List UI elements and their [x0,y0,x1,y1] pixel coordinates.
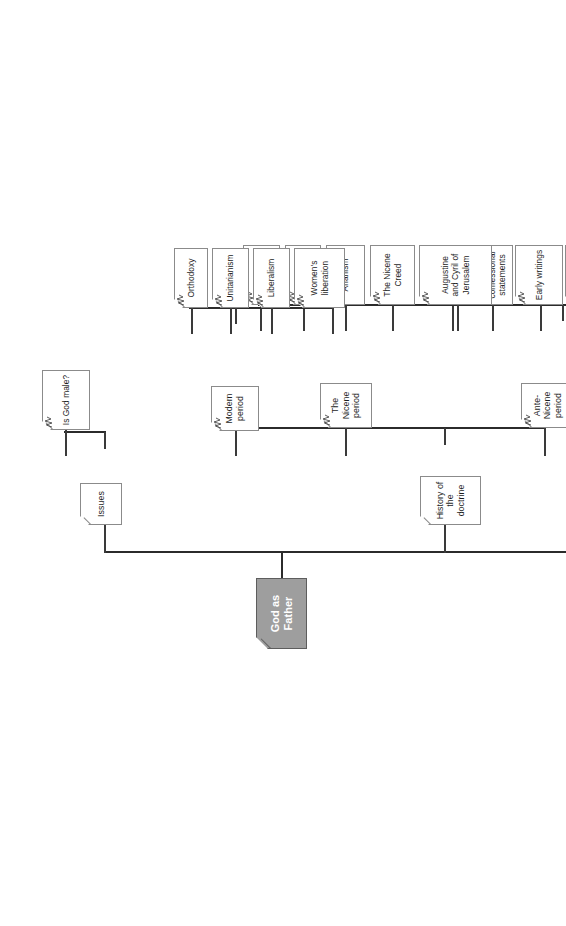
connector-issues-child-1 [65,430,67,456]
subbranch-label: Ante-Nicene period [532,387,564,424]
connector-ante-nicene-stem [562,305,564,321]
connector-history-modern [235,428,237,456]
connector-modern-stem [235,308,237,324]
connector-spine-history [444,525,446,553]
subbranch-node-ante-nicene-period[interactable]: Ante-Nicene period [521,383,566,428]
leaf-node[interactable]: Orthodoxy [174,248,208,308]
scribble-mark-icon [43,415,55,428]
connector-root-stem [281,552,283,578]
connector-an-child-3 [540,305,542,331]
leaf-node[interactable]: Is God male? [42,370,90,430]
subbranch-label: Modern period [224,390,245,427]
subbranch-node-modern-period[interactable]: Modern period [211,386,259,431]
leaf-label: Unitarianism [225,252,235,304]
connector-an-child-1 [452,305,454,331]
leaf-label: Orthodoxy [186,252,196,304]
connector-history-ante-nicene [544,428,546,456]
leaf-label: Liberalism [266,252,276,304]
leaf-node[interactable]: Women's liberation [294,248,345,308]
leaf-label: The Nicene Creed [382,249,403,301]
leaf-node[interactable]: The Nicene Creed [370,245,415,305]
scribble-mark-icon [516,290,528,303]
subbranch-node-the-nicene-period[interactable]: The Nicene period [320,383,372,428]
leaf-label: Women's liberation [309,252,330,304]
connector-history-nicene [345,428,347,456]
connector-spine-issues [104,525,106,553]
connector-mod-child-1 [191,308,193,334]
church-cross-icon [90,518,116,554]
leaf-node[interactable]: Early writings [515,245,563,305]
scribble-mark-icon [213,293,225,306]
leaf-label: Early writings [534,249,544,301]
leaf-label: Augustine and Cyril of Jerusalem [440,249,471,301]
connector-nic-child-3 [345,305,347,331]
connector-issues-bus [64,431,106,433]
root-node-label: God as Father [269,582,295,645]
connector-mod-child-4 [332,308,334,334]
root-node-god-as-father[interactable]: God as Father [256,578,307,649]
subbranch-label: The Nicene period [330,387,362,424]
church-cross-icon [273,644,307,692]
leaf-node[interactable]: Augustine and Cyril of Jerusalem [419,245,492,305]
connector-history-bus [235,427,545,429]
branch-node-history-of-the-doctrine[interactable]: History of the doctrine [420,476,481,525]
diagram-canvas: God as Father Old Testament [0,0,566,926]
leaf-node[interactable]: Unitarianism [212,248,249,308]
connector-nic-child-4 [392,305,394,331]
connector-main-spine [104,551,566,553]
leaf-node[interactable]: Liberalism [253,248,290,308]
scribble-mark-icon [212,416,224,429]
connector-an-child-2 [492,305,494,331]
leaf-label: Is God male? [61,374,71,426]
mindmap-board: God as Father Old Testament [0,0,566,926]
connector-mod-child-2 [230,308,232,334]
branch-label: Issues [96,487,107,521]
connector-mod-child-3 [271,308,273,334]
connector-nic-child-5 [457,305,459,331]
branch-node-issues[interactable]: Issues [80,483,122,525]
connector-history-stem [444,428,446,445]
connector-issues-stem [104,432,106,449]
scribble-mark-icon [420,290,432,303]
church-cross-icon [439,518,465,554]
branch-label: History of the doctrine [435,480,467,521]
